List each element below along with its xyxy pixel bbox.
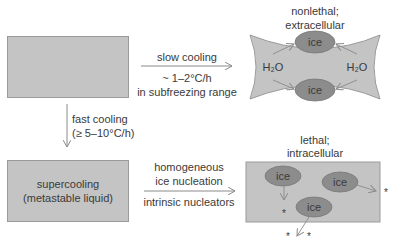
damage-marker-1: * <box>280 207 288 221</box>
ice-2-label: ice <box>322 175 358 189</box>
metastable-liquid-label: (metastable liquid) <box>23 191 113 205</box>
lethal-label: lethal; <box>280 133 350 147</box>
fast-cooling-rate: (≥ 5–10°C/h) <box>72 126 134 140</box>
intrinsic-nucleators-label: intrinsic nucleators <box>140 195 238 209</box>
homogeneous-label: homogeneous <box>143 160 235 174</box>
water-right-label: H₂O <box>342 60 372 74</box>
slow-cooling-label: slow cooling <box>141 50 233 64</box>
damage-marker-4: * <box>305 230 313 244</box>
water-left-label: H₂O <box>258 60 288 74</box>
ice-nucleation-label: ice nucleation <box>143 174 235 188</box>
ice-1-label: ice <box>265 169 301 183</box>
extracellular-label: extracellular <box>275 18 355 32</box>
nonlethal-label: nonlethal; <box>275 4 355 18</box>
damage-marker-3: * <box>284 230 292 244</box>
ice-top-label: ice <box>295 35 335 49</box>
initial-cell-box <box>7 36 129 98</box>
damage-marker-2: * <box>382 186 390 200</box>
fast-cooling-label: fast cooling <box>72 112 128 126</box>
ice-bottom-label: ice <box>295 83 335 97</box>
intracellular-label: intracellular <box>275 146 355 160</box>
supercooling-label: supercooling <box>37 177 99 191</box>
slow-cooling-rate: ~ 1–2°C/h <box>141 71 233 85</box>
slow-cooling-range: in subfreezing range <box>135 85 239 99</box>
supercooling-box: supercooling (metastable liquid) <box>7 160 129 222</box>
ice-3-label: ice <box>296 200 332 214</box>
